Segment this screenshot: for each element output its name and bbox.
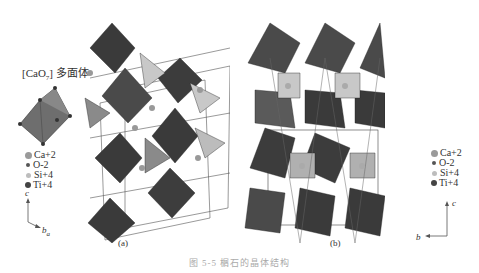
structure-panel-a: [80, 18, 230, 243]
panel-label-b: (b): [330, 238, 341, 248]
axis-label-c-b: c: [452, 198, 456, 208]
structure-panel-b: [240, 18, 385, 243]
legend-left: Ca+2 O-2 Si+4 Ti+4: [25, 150, 56, 190]
polyhedron-label: [CaO7] 多面体: [22, 64, 89, 82]
axis-label-b-b: b: [416, 232, 421, 242]
figure-titanite-structure: [CaO7] 多面体 Ca+2 O-2 Si+4 Ti+4 c ba: [0, 0, 479, 273]
panel-label-a: (a): [118, 238, 128, 248]
axis-label-c-a: c: [25, 188, 29, 198]
figure-caption: 图 5-5 榍石的晶体结构: [0, 256, 479, 269]
legend-right: Ca+2 O-2 Si+4 Ti+4: [431, 148, 462, 188]
axis-label-b-a: ba: [42, 225, 50, 238]
axes-icon-b: [420, 200, 450, 240]
legend-item-ti: Ti+4: [25, 180, 56, 190]
cao7-polyhedron-icon: [15, 86, 75, 146]
legend-item-ti: Ti+4: [431, 178, 462, 188]
